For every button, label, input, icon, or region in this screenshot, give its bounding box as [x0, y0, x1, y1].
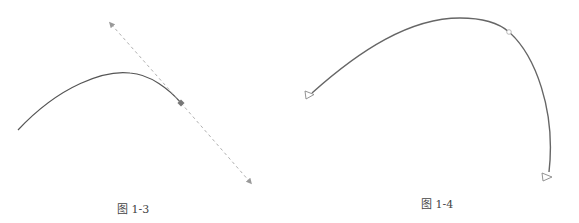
- tangent-handle-line-lower[interactable]: [181, 103, 250, 182]
- midpoint-marker-icon[interactable]: [507, 30, 512, 35]
- figure-caption-1-3: 图 1-3: [117, 200, 149, 216]
- end-triangle-icon[interactable]: [542, 173, 552, 181]
- arc-curve: [312, 18, 550, 172]
- bezier-curve: [18, 73, 181, 130]
- figure-1-4: [305, 18, 552, 181]
- tangent-handle-line[interactable]: [111, 24, 181, 103]
- figure-caption-1-4: 图 1-4: [421, 195, 453, 211]
- figure-1-3: [18, 24, 250, 182]
- diagram-canvas: [0, 0, 579, 223]
